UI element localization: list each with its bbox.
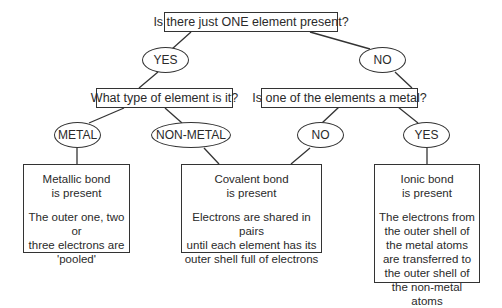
question-metal-present: Is one of the elements a metal? [261, 88, 418, 108]
answer-no-one-element: NO [359, 47, 406, 73]
ionic-body-6: the non-metal atoms [375, 280, 479, 308]
covalent-body-3: outer shell full of electrons [182, 252, 321, 266]
metallic-body-3: 'pooled' [24, 252, 129, 266]
metallic-body-2: three electrons are [24, 238, 129, 252]
ionic-title-1: Ionic bond [375, 172, 479, 186]
question-element-type: What type of element is it? [96, 88, 233, 108]
answer-yes-metal: YES [403, 122, 450, 148]
answer-metal: METAL [54, 122, 101, 148]
answer-no-metal: NO [297, 122, 344, 148]
ionic-body-5: the outer shell of [375, 266, 479, 280]
ionic-body-1: The electrons from [375, 210, 479, 224]
metallic-title-1: Metallic bond [24, 172, 129, 186]
result-covalent-bond: Covalent bond is present Electrons are s… [181, 164, 322, 253]
result-metallic-bond: Metallic bond is present The outer one, … [23, 164, 130, 253]
covalent-body-2: until each element has its [182, 238, 321, 252]
ionic-body-2: the outer shell of [375, 224, 479, 238]
covalent-title-2: is present [182, 186, 321, 200]
metallic-body-1: The outer one, two or [24, 210, 129, 238]
ionic-title-2: is present [375, 186, 479, 200]
ionic-body-3: the metal atoms [375, 238, 479, 252]
metallic-title-2: is present [24, 186, 129, 200]
covalent-title-1: Covalent bond [182, 172, 321, 186]
covalent-body-1: Electrons are shared in pairs [182, 210, 321, 238]
question-one-element: Is there just ONE element present? [164, 12, 338, 32]
result-ionic-bond: Ionic bond is present The electrons from… [374, 164, 480, 283]
answer-yes-one-element: YES [142, 47, 189, 73]
ionic-body-4: are transferred to [375, 252, 479, 266]
answer-non-metal: NON-METAL [151, 122, 231, 148]
